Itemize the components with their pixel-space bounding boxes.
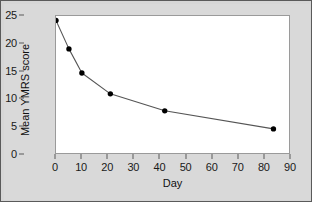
line-chart-canvas [56, 16, 289, 153]
data-point [79, 70, 84, 75]
data-point [108, 91, 113, 96]
data-point [66, 46, 71, 51]
data-point [271, 126, 276, 131]
plot-area [55, 15, 290, 154]
y-axis-title: Mean YMRS score [19, 20, 31, 160]
data-point [56, 18, 59, 23]
x-axis-title: Day [55, 177, 290, 189]
data-point [162, 108, 167, 113]
chart-figure: 0510152025 Mean YMRS score 0102030405060… [0, 0, 312, 202]
data-point-markers [56, 18, 276, 132]
